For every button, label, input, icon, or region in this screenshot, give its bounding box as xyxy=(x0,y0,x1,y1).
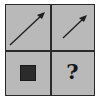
puzzle-grid: ? xyxy=(5,4,95,96)
cell-top-right xyxy=(52,5,94,50)
cell-bottom-right: ? xyxy=(52,52,94,95)
cell-bottom-left xyxy=(6,52,50,95)
short-arrow-icon xyxy=(52,5,94,50)
dark-square-icon xyxy=(20,65,36,81)
question-mark: ? xyxy=(52,60,94,84)
long-arrow-icon xyxy=(6,5,50,50)
cell-top-left xyxy=(6,5,50,50)
